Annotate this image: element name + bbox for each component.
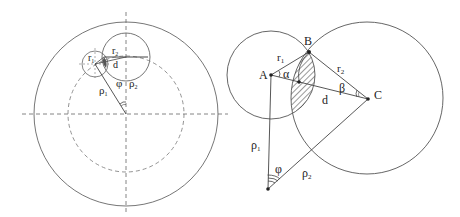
label-r1: r1: [88, 52, 94, 64]
point-midpoint: [297, 80, 301, 84]
label-phi: φ: [275, 162, 282, 176]
label-d: d: [322, 93, 328, 107]
phi-angle-arc-2: [121, 104, 126, 106]
label-rho1: ρ1: [251, 138, 261, 153]
point-C: [366, 97, 370, 101]
label-d: d: [113, 59, 118, 70]
label-rho1: ρ1: [99, 84, 108, 97]
phi-angle-arc: [120, 102, 126, 104]
alpha-angle-arc: [279, 71, 280, 77]
segment-rho1: [268, 75, 271, 189]
label-r1: r1: [277, 51, 285, 65]
right-figure: A B C r1 r2 α β d ρ1 φ ρ2: [227, 22, 443, 191]
beta-angle-arc: [356, 90, 357, 97]
label-B: B: [304, 34, 312, 48]
segment-rho2: [268, 99, 368, 189]
label-alpha: α: [283, 67, 290, 81]
phi-angle-arc-1: [268, 181, 275, 183]
label-phi: φ: [116, 77, 122, 89]
phi-angle-arc-2: [268, 178, 278, 181]
point-origin: [266, 187, 270, 191]
point-B: [307, 50, 311, 54]
label-beta: β: [339, 81, 345, 95]
point-A: [269, 73, 273, 77]
left-figure: r1 r2 d ρ1 φ ρ2: [22, 12, 228, 215]
label-C: C: [374, 88, 382, 102]
beta-angle-arc-2: [359, 92, 360, 97]
label-r2: r2: [337, 62, 345, 76]
label-A: A: [259, 68, 268, 82]
label-rho2: ρ2: [302, 166, 312, 181]
label-r2: r2: [112, 45, 118, 57]
figure-canvas: r1 r2 d ρ1 φ ρ2 A: [0, 0, 460, 217]
